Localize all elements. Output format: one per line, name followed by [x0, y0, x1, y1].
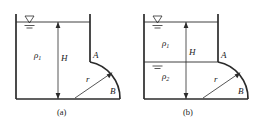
point-label-B-b: B [238, 86, 244, 96]
point-label-A-a: A [92, 50, 99, 60]
gate-arc-b [218, 62, 248, 99]
figure-two-panel-tank-diagram: ρ1 H A B r (a) [0, 0, 256, 122]
tank-outline-a [16, 14, 120, 99]
dimension-label-H-a: H [60, 53, 68, 63]
dimension-line-H-a [56, 22, 61, 99]
radius-arrow-b [203, 72, 241, 98]
dimension-line-H-b [184, 22, 189, 99]
dimension-label-H-b: H [188, 47, 196, 57]
panel-b: ρ1 ρ2 H A B r (b) [128, 0, 256, 122]
caption-b: (b) [183, 107, 193, 117]
fluid-label-rho1-a: ρ1 [33, 50, 41, 61]
radius-arrow-a [75, 72, 113, 98]
fluid-label-rho1-b: ρ1 [161, 38, 169, 49]
radius-label-r-a: r [86, 74, 90, 84]
panel-a: ρ1 H A B r (a) [0, 0, 128, 122]
radius-label-r-b: r [214, 74, 218, 84]
fluid-label-rho2-b: ρ2 [161, 71, 169, 82]
point-label-B-a: B [110, 86, 116, 96]
interface-surface-mark-icon-b [153, 66, 163, 69]
gate-arc-a [90, 62, 120, 99]
tank-outline-b [144, 14, 248, 99]
point-label-A-b: A [220, 50, 227, 60]
caption-a: (a) [57, 107, 67, 117]
